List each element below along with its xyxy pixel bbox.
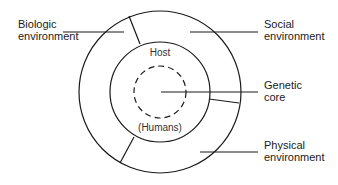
divider-physical-biologic xyxy=(120,137,134,163)
label-genetic-core: Genetic core xyxy=(264,79,302,103)
divider-biologic-social xyxy=(129,16,140,44)
label-physical-line1: Physical xyxy=(264,139,325,151)
label-biologic-environment: Biologic environment xyxy=(18,18,79,42)
label-social-environment: Social environment xyxy=(264,18,325,42)
label-social-line1: Social xyxy=(264,18,325,30)
label-social-line2: environment xyxy=(264,30,325,42)
label-humans: (Humans) xyxy=(125,122,195,133)
label-host: Host xyxy=(140,47,180,58)
label-physical-line2: environment xyxy=(264,151,325,163)
label-biologic-line2: environment xyxy=(18,30,79,42)
label-genetic-line1: Genetic xyxy=(264,79,302,91)
label-biologic-line1: Biologic xyxy=(18,18,79,30)
label-physical-environment: Physical environment xyxy=(264,139,325,163)
divider-social-physical xyxy=(209,99,239,103)
label-genetic-line2: core xyxy=(264,91,302,103)
